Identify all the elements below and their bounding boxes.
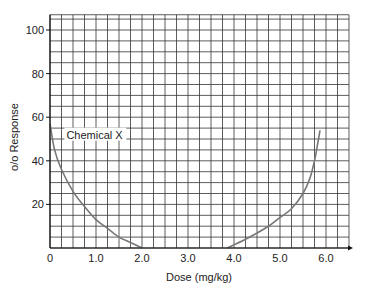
curves — [50, 124, 320, 248]
y-axis-title: o/o Response — [8, 103, 20, 171]
x-tick-label: 6.0 — [318, 252, 333, 264]
y-tick-label: 60 — [32, 111, 44, 123]
y-tick-label: 100 — [26, 24, 44, 36]
y-tick-label: 80 — [32, 68, 44, 80]
x-tick-label: 5.0 — [272, 252, 287, 264]
x-tick-label: 1.0 — [88, 252, 103, 264]
x-tick-labels: 01.02.03.04.05.06.0 — [47, 252, 334, 264]
x-axis-arrow-icon — [348, 246, 353, 251]
x-tick-label: 3.0 — [180, 252, 195, 264]
y-tick-label: 20 — [32, 198, 44, 210]
x-tick-label: 0 — [47, 252, 53, 264]
dose-response-chart: 01.02.03.04.05.06.0 20406080100 Chemical… — [0, 0, 368, 291]
x-tick-label: 2.0 — [134, 252, 149, 264]
response-curve — [227, 130, 320, 248]
y-tick-labels: 20406080100 — [26, 24, 50, 210]
annotation-chemical-x: Chemical X — [66, 129, 123, 141]
x-axis-title: Dose (mg/kg) — [166, 271, 232, 283]
x-tick-label: 4.0 — [226, 252, 241, 264]
y-tick-label: 40 — [32, 155, 44, 167]
